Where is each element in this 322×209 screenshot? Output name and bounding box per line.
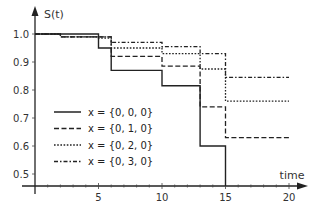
legend-label: x = {0, 1, 0} <box>88 123 153 134</box>
y-axis-title: S(t) <box>44 8 64 21</box>
x-tick-label: 20 <box>283 192 296 203</box>
x-tick-label: 5 <box>95 192 101 203</box>
y-tick-label: 0.7 <box>13 113 29 124</box>
legend-label: x = {0, 2, 0} <box>88 140 153 151</box>
legend: x = {0, 0, 0}x = {0, 1, 0}x = {0, 2, 0}x… <box>54 107 153 168</box>
y-tick-label: 0.9 <box>13 57 29 68</box>
x-tick-label: 15 <box>219 192 232 203</box>
survival-chart: S(t)time51015200.50.60.70.80.91.0 x = {0… <box>0 0 322 209</box>
y-tick-label: 0.8 <box>13 85 29 96</box>
legend-label: x = {0, 0, 0} <box>88 107 153 118</box>
y-tick-label: 1.0 <box>13 29 29 40</box>
x-tick-label: 10 <box>156 192 169 203</box>
series-group <box>35 34 289 186</box>
series-line <box>35 34 289 101</box>
axes: S(t)time51015200.50.60.70.80.91.0 <box>13 6 308 203</box>
y-tick-label: 0.6 <box>13 141 29 152</box>
y-tick-label: 0.5 <box>13 169 29 180</box>
x-axis-arrow-icon <box>297 183 308 190</box>
x-axis-title: time <box>280 169 305 182</box>
legend-label: x = {0, 3, 0} <box>88 156 153 167</box>
y-axis-arrow-icon <box>32 6 39 16</box>
